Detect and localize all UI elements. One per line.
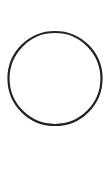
circle-outline-icon	[0, 0, 103, 171]
circle-shape	[9, 32, 102, 125]
canvas	[0, 0, 103, 171]
